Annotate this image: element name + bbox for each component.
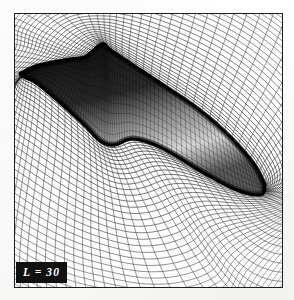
- plot-frame: L = 30: [14, 13, 283, 288]
- status-badge: L = 30: [16, 262, 67, 283]
- computational-grid: [15, 14, 282, 287]
- label-text: L = 30: [23, 267, 60, 279]
- figure-root: L = 30: [0, 0, 294, 300]
